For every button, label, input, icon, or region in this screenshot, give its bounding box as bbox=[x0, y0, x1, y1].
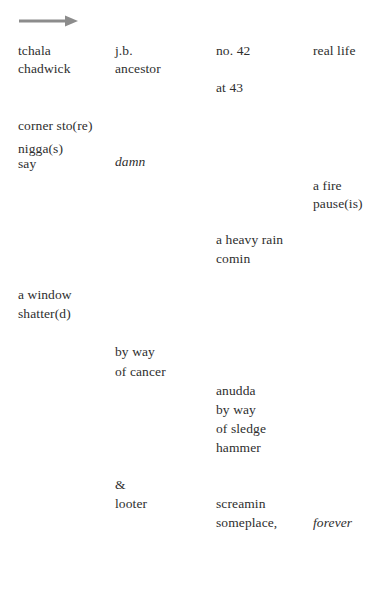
poem-line: comin bbox=[216, 252, 250, 266]
right-arrow-icon bbox=[18, 13, 80, 29]
poem-line: of cancer bbox=[115, 365, 166, 379]
poem-line: a fire bbox=[313, 179, 342, 193]
poem-line: damn bbox=[115, 155, 145, 169]
poem-line: pause(is) bbox=[313, 197, 363, 211]
poem-line: hammer bbox=[216, 441, 261, 455]
poem-page: tchalachadwickj.b.ancestorno. 42at 43rea… bbox=[0, 0, 386, 598]
poem-line: of sledge bbox=[216, 422, 266, 436]
poem-line: by way bbox=[115, 345, 155, 359]
poem-line: a heavy rain bbox=[216, 233, 283, 247]
poem-line: someplace, bbox=[216, 516, 277, 530]
right-arrow-svg bbox=[18, 13, 80, 29]
poem-line: say bbox=[18, 157, 36, 171]
arrow-head bbox=[65, 16, 78, 27]
poem-line: looter bbox=[115, 497, 147, 511]
poem-line: nigga(s) bbox=[18, 142, 63, 156]
poem-line: ancestor bbox=[115, 62, 161, 76]
poem-line: by way bbox=[216, 403, 256, 417]
poem-line: screamin bbox=[216, 497, 266, 511]
poem-line: anudda bbox=[216, 384, 256, 398]
poem-line: no. 42 bbox=[216, 44, 250, 58]
poem-line: a window bbox=[18, 288, 72, 302]
poem-line: at 43 bbox=[216, 81, 243, 95]
poem-line: chadwick bbox=[18, 62, 71, 76]
poem-line: corner sto(re) bbox=[18, 119, 92, 133]
poem-line: j.b. bbox=[115, 44, 133, 58]
poem-line: forever bbox=[313, 516, 352, 530]
poem-line: real life bbox=[313, 44, 356, 58]
poem-line: & bbox=[115, 478, 126, 492]
poem-line: shatter(d) bbox=[18, 307, 71, 321]
poem-line: tchala bbox=[18, 44, 51, 58]
